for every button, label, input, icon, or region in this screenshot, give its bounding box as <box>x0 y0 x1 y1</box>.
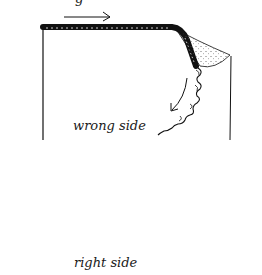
right-side-label: right side <box>74 255 137 270</box>
wrong-side-label: wrong side <box>73 118 146 133</box>
curved-down-arrow-icon <box>171 78 187 111</box>
right-arrow-icon <box>64 12 110 21</box>
sewing-illustration <box>0 0 262 275</box>
